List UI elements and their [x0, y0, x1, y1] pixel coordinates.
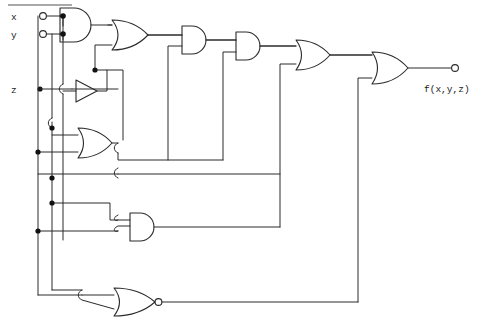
wire-hop-or2out — [114, 143, 118, 153]
nor-bubble — [155, 299, 162, 306]
or3-in-bottom — [280, 64, 296, 227]
junction-and2-in — [49, 200, 54, 205]
logic-circuit-diagram: x y z f(x,y,z) — [0, 0, 479, 329]
input-circle-y — [40, 31, 47, 38]
junction-x — [60, 13, 66, 19]
output-circle — [452, 65, 459, 72]
junction-or2-bottom — [35, 149, 40, 154]
or2-out-right — [118, 153, 223, 160]
input-circle-x — [40, 13, 47, 20]
and-gate-3[interactable] — [182, 26, 206, 54]
output-label: f(x,y,z) — [424, 84, 470, 95]
inv1-out — [95, 70, 107, 91]
and3-in-bottom — [168, 46, 182, 160]
junction-inv-out — [92, 67, 97, 72]
nor1-in-bottom — [78, 290, 114, 309]
or4-in-bottom — [358, 78, 372, 302]
junction-or2-top — [49, 125, 54, 130]
inv1-branch-down — [107, 70, 123, 140]
wire-hop-z — [114, 168, 118, 178]
and4-in-bottom — [223, 52, 236, 160]
and2-in-top — [52, 203, 130, 220]
junction-and2-bot — [35, 228, 40, 233]
input-label-z: z — [11, 85, 17, 96]
or-gate-2[interactable] — [78, 128, 112, 158]
nor-gate-1[interactable] — [114, 288, 162, 316]
and-gate-4[interactable] — [236, 32, 260, 60]
input-label-y: y — [11, 30, 17, 41]
circuit-canvas: x y z f(x,y,z) — [0, 0, 479, 329]
and-gate-1[interactable] — [60, 8, 91, 42]
or-gate-3[interactable] — [296, 40, 330, 70]
and-gate-2[interactable] — [130, 213, 154, 241]
or-gate-4[interactable] — [372, 52, 408, 84]
or-gate-1[interactable] — [112, 20, 148, 50]
inverter-1[interactable] — [76, 80, 97, 102]
input-label-x: x — [11, 12, 17, 23]
junction-y — [60, 31, 66, 37]
junction-mid-a — [49, 175, 54, 180]
or1-in-bottom — [95, 45, 112, 70]
